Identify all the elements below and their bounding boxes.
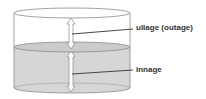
innage-label: innage	[136, 66, 162, 74]
ullage-label: ullage (outage)	[136, 24, 193, 32]
ullage-leader-line	[72, 29, 133, 34]
tank-diagram	[0, 0, 206, 99]
tank-top-rim	[14, 8, 130, 18]
